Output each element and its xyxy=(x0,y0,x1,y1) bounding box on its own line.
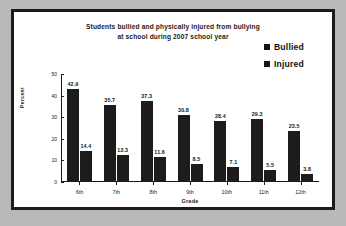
y-axis-tick: 20 xyxy=(51,136,61,142)
legend-label-bullied: Bullied xyxy=(274,42,304,52)
bar-group: 37.311.68th xyxy=(135,74,172,182)
x-axis-tick-label: 8th xyxy=(149,189,157,195)
chart-title-line-1: Students bullied and physically injured … xyxy=(86,23,260,30)
bar-value-label: 23.5 xyxy=(289,123,300,129)
x-axis-tick-label: 10th xyxy=(222,189,233,195)
x-axis-tick-mark xyxy=(153,182,154,185)
y-axis-tick: 30 xyxy=(51,114,61,120)
x-axis-tick-label: 11th xyxy=(259,189,269,195)
bar-injured[interactable]: 8.5 xyxy=(191,164,203,182)
bar-injured[interactable]: 12.3 xyxy=(117,155,129,182)
x-axis-tick-mark xyxy=(190,182,191,185)
y-axis-label: Percent xyxy=(19,87,25,108)
bar-group: 30.88.59th xyxy=(172,74,209,182)
y-axis-tick: 50 xyxy=(51,71,61,77)
bar-bullied[interactable]: 37.3 xyxy=(141,101,153,182)
bar-group: 42.914.46th xyxy=(61,74,98,182)
legend-swatch-icon xyxy=(264,44,270,50)
bar-value-label: 28.4 xyxy=(215,113,226,119)
bar-value-label: 42.9 xyxy=(67,81,78,87)
bar-group: 35.712.37th xyxy=(98,74,135,182)
x-axis-tick-mark xyxy=(264,182,265,185)
bar-value-label: 14.4 xyxy=(80,143,91,149)
bar-value-label: 7.1 xyxy=(229,159,237,165)
bar-bullied[interactable]: 28.4 xyxy=(214,121,226,182)
bar-value-label: 35.7 xyxy=(104,97,115,103)
bar-bullied[interactable]: 35.7 xyxy=(104,105,116,182)
bar-injured[interactable]: 5.5 xyxy=(264,170,276,182)
plot-area: 01020304050 42.914.46th35.712.37th37.311… xyxy=(61,74,319,182)
bar-value-label: 29.3 xyxy=(252,111,263,117)
bar-value-label: 5.5 xyxy=(266,162,274,168)
legend-label-injured: Injured xyxy=(274,59,304,69)
legend-swatch-icon xyxy=(264,61,270,67)
x-axis-tick-mark xyxy=(116,182,117,185)
y-axis-tick: 0 xyxy=(54,179,61,185)
bar-group: 29.35.511th xyxy=(245,74,282,182)
legend-item-injured[interactable]: Injured xyxy=(264,59,304,69)
chart-frame: Students bullied and physically injured … xyxy=(11,9,335,210)
y-axis-tick-mark xyxy=(61,182,64,183)
bar-value-label: 3.8 xyxy=(303,166,311,172)
bar-bullied[interactable]: 29.3 xyxy=(251,119,263,182)
bar-bullied[interactable]: 23.5 xyxy=(288,131,300,182)
y-axis-tick: 10 xyxy=(51,157,61,163)
bar-bullied[interactable]: 42.9 xyxy=(67,89,79,182)
screenshot-root: Students bullied and physically injured … xyxy=(0,0,346,226)
bar-value-label: 8.5 xyxy=(193,156,201,162)
chart-title: Students bullied and physically injured … xyxy=(14,22,332,41)
bar-injured[interactable]: 14.4 xyxy=(80,151,92,182)
x-axis-tick-label: 7th xyxy=(113,189,121,195)
x-axis-tick-mark xyxy=(227,182,228,185)
bar-injured[interactable]: 3.8 xyxy=(301,174,313,182)
chart-canvas: Students bullied and physically injured … xyxy=(14,12,332,207)
x-axis-tick-label: 12th xyxy=(295,189,306,195)
chart-title-line-2: at school during 2007 school year xyxy=(14,32,332,42)
x-axis-tick-label: 6th xyxy=(76,189,84,195)
bar-value-label: 11.6 xyxy=(154,149,165,155)
bar-group: 23.53.812th xyxy=(282,74,319,182)
bar-injured[interactable]: 7.1 xyxy=(227,167,239,182)
bar-value-label: 37.3 xyxy=(141,93,152,99)
x-axis-tick-label: 9th xyxy=(186,189,194,195)
chart-legend: Bullied Injured xyxy=(264,42,304,69)
x-axis-tick-mark xyxy=(79,182,80,185)
y-axis-tick: 40 xyxy=(51,93,61,99)
bar-injured[interactable]: 11.6 xyxy=(154,157,166,182)
legend-item-bullied[interactable]: Bullied xyxy=(264,42,304,52)
x-axis-tick-mark xyxy=(301,182,302,185)
bar-bullied[interactable]: 30.8 xyxy=(178,115,190,182)
x-axis-label: Grade xyxy=(61,198,319,204)
bar-group: 28.47.110th xyxy=(208,74,245,182)
bar-groups: 42.914.46th35.712.37th37.311.68th30.88.5… xyxy=(61,74,319,182)
bar-value-label: 30.8 xyxy=(178,107,189,113)
bar-value-label: 12.3 xyxy=(117,147,128,153)
